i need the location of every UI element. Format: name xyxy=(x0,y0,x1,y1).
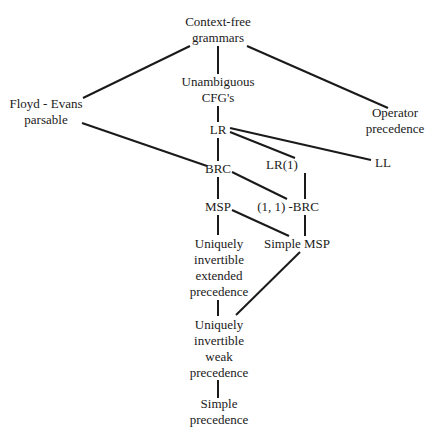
node-lr: LR xyxy=(210,122,227,138)
node-label-line: Operator xyxy=(366,105,424,121)
node-label-line: extended xyxy=(190,268,248,284)
node-label-line: Simple MSP xyxy=(264,236,330,252)
edge-floyd-brc xyxy=(82,123,207,166)
node-operator-precedence: Operator precedence xyxy=(366,105,424,137)
edge-lr-ll xyxy=(230,128,371,160)
node-label-line: BRC xyxy=(205,161,231,177)
node-label-line: precedence xyxy=(190,365,248,381)
node-context-free-grammars: Context-free grammars xyxy=(185,14,251,46)
node-msp: MSP xyxy=(205,199,231,215)
node-label-line: LL xyxy=(375,155,391,171)
node-label-line: MSP xyxy=(205,199,231,215)
grammar-class-hierarchy-diagram: Context-free grammars Unambiguous CFG's … xyxy=(0,0,435,432)
node-label-line: LR(1) xyxy=(266,157,298,173)
node-label-line: Unambiguous xyxy=(182,74,255,90)
node-label-line: precedence xyxy=(366,121,424,137)
node-uniquely-invertible-weak-precedence: Uniquely invertible weak precedence xyxy=(190,317,248,381)
node-label-line: Floyd - Evans xyxy=(10,96,83,112)
node-label-line: parsable xyxy=(10,112,83,128)
node-simple-precedence: Simple precedence xyxy=(190,396,248,428)
node-label-line: (1, 1) -BRC xyxy=(257,199,319,215)
node-label-line: Uniquely xyxy=(190,317,248,333)
node-label-line: invertible xyxy=(190,333,248,349)
node-uniquely-invertible-extended-precedence: Uniquely invertible extended precedence xyxy=(190,236,248,300)
node-label-line: Simple xyxy=(190,396,248,412)
edge-cfg-opprec xyxy=(247,46,388,108)
node-ll: LL xyxy=(375,155,391,171)
node-brc: BRC xyxy=(205,161,231,177)
node-simple-msp: Simple MSP xyxy=(264,236,330,252)
node-label-line: Context-free xyxy=(185,14,251,30)
node-lr1: LR(1) xyxy=(266,157,298,173)
node-label-line: grammars xyxy=(185,30,251,46)
edge-cfg-floyd xyxy=(83,46,190,98)
node-label-line: precedence xyxy=(190,412,248,428)
node-1-1-brc: (1, 1) -BRC xyxy=(257,199,319,215)
node-label-line: CFG's xyxy=(182,90,255,106)
node-label-line: weak xyxy=(190,349,248,365)
node-floyd-evans-parsable: Floyd - Evans parsable xyxy=(10,96,83,128)
edge-brc-brc11 xyxy=(232,172,287,199)
node-label-line: precedence xyxy=(190,284,248,300)
node-label-line: invertible xyxy=(190,252,248,268)
node-label-line: LR xyxy=(210,122,227,138)
node-label-line: Uniquely xyxy=(190,236,248,252)
node-unambiguous-cfgs: Unambiguous CFG's xyxy=(182,74,255,106)
